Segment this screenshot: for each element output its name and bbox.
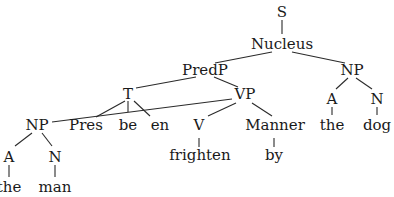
node-nucleus: Nucleus: [251, 35, 313, 53]
edge-vp-v: [208, 103, 236, 116]
node-pres: Pres: [69, 116, 103, 134]
node-the-right: the: [320, 116, 345, 134]
edge-np-a: [336, 78, 348, 89]
node-a-right: A: [326, 90, 338, 108]
edge-np-n: [356, 78, 372, 89]
node-frighten: frighten: [169, 146, 231, 164]
syntax-tree-diagram: S Nucleus PredP NP T VP A N NP Pres be e…: [0, 0, 394, 197]
node-n-right: N: [370, 90, 383, 108]
node-v: V: [193, 116, 206, 134]
node-np-right: NP: [340, 61, 363, 79]
node-predp: PredP: [182, 61, 228, 79]
edge-np-n-left: [42, 133, 52, 146]
node-t: T: [123, 85, 133, 103]
node-a-left: A: [3, 148, 15, 166]
edge-vp-manner: [252, 103, 272, 116]
edge-t-en: [134, 101, 150, 116]
node-s: S: [277, 3, 287, 21]
edge-np-a-left: [15, 133, 32, 146]
node-np-left: NP: [25, 116, 48, 134]
edge-nucleus-np: [292, 52, 345, 63]
node-en: en: [151, 116, 170, 134]
tree-labels: S Nucleus PredP NP T VP A N NP Pres be e…: [0, 3, 392, 196]
node-manner: Manner: [245, 116, 306, 134]
node-vp: VP: [234, 85, 256, 103]
node-dog: dog: [363, 116, 392, 134]
node-n-left: N: [48, 148, 61, 166]
node-be: be: [119, 116, 138, 134]
node-the-left: the: [0, 178, 21, 196]
node-by: by: [265, 146, 284, 164]
node-man: man: [39, 178, 72, 196]
